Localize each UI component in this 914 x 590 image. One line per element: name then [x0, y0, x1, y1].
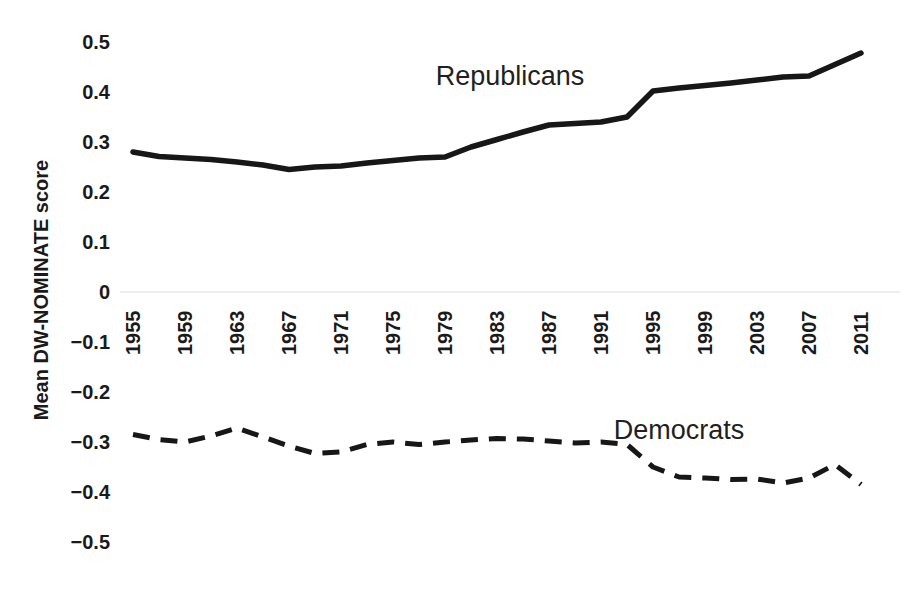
x-axis-tick-label: 1995 — [642, 311, 664, 356]
x-axis-tick-label: 1955 — [122, 311, 144, 356]
x-axis-tick-label: 1971 — [330, 311, 352, 356]
x-axis-tick-label: 2003 — [746, 311, 768, 356]
x-axis-tick-label: 1987 — [538, 311, 560, 356]
x-axis-tick-label: 1999 — [694, 311, 716, 356]
y-axis-tick-label: 0.4 — [82, 81, 111, 103]
y-axis-title: Mean DW-NOMINATE score — [30, 160, 52, 420]
chart-container: 0.50.40.30.20.10−0.1−0.2−0.3−0.4−0.5 195… — [0, 0, 914, 590]
y-axis-tick-label: 0.5 — [82, 31, 110, 53]
x-axis-tick-label: 2007 — [798, 311, 820, 356]
y-axis-tick-label: −0.3 — [71, 431, 110, 453]
x-axis-tick-label: 2011 — [850, 312, 872, 355]
y-axis-tick-label: 0 — [99, 281, 110, 303]
x-axis-tick-label: 1967 — [278, 311, 300, 356]
series-label-republicans: Republicans — [436, 61, 585, 91]
y-axis-title-text: Mean DW-NOMINATE score — [30, 160, 52, 420]
x-axis-tick-label: 1983 — [486, 311, 508, 356]
x-axis-tick-labels: 1955195919631967197119751979198319871991… — [122, 311, 872, 356]
x-axis-tick-label: 1979 — [434, 311, 456, 356]
y-axis-tick-label: −0.5 — [71, 531, 110, 553]
y-axis-tick-label: −0.4 — [71, 481, 111, 503]
line-chart: 0.50.40.30.20.10−0.1−0.2−0.3−0.4−0.5 195… — [0, 0, 914, 590]
y-axis-tick-label: 0.2 — [82, 181, 110, 203]
x-axis-tick-label: 1963 — [226, 311, 248, 356]
x-axis-tick-label: 1975 — [382, 311, 404, 356]
series-label-democrats: Democrats — [614, 415, 745, 445]
y-axis-tick-label: 0.1 — [82, 231, 110, 253]
x-axis-tick-label: 1959 — [174, 311, 196, 356]
y-axis-tick-label: −0.2 — [71, 381, 110, 403]
y-axis-tick-label: 0.3 — [82, 131, 110, 153]
x-axis-tick-label: 1991 — [590, 311, 612, 356]
y-axis-tick-label: −0.1 — [71, 331, 110, 353]
